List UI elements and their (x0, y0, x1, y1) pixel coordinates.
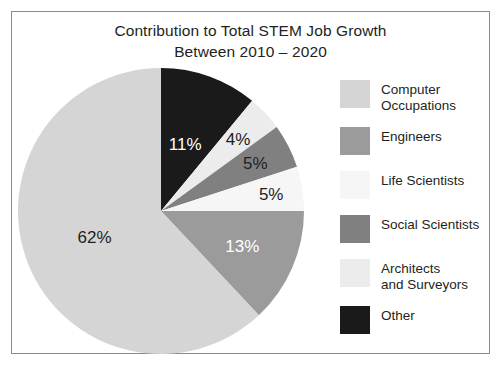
legend-swatch-icon (340, 259, 370, 287)
pie-slice-label: 13% (225, 237, 259, 256)
legend-item-label: Life Scientists (381, 171, 464, 189)
legend-item-label: Computer Occupations (381, 80, 456, 113)
legend-item[interactable]: Computer Occupations (340, 80, 490, 113)
legend-item[interactable]: Life Scientists (340, 171, 490, 201)
chart-legend: Computer OccupationsEngineersLife Scient… (340, 80, 490, 350)
pie-slice-label: 4% (226, 130, 251, 149)
legend-item[interactable]: Engineers (340, 127, 490, 157)
pie-chart-figure: Contribution to Total STEM Job Growth Be… (0, 0, 502, 368)
legend-item-label: Engineers (381, 127, 442, 145)
legend-swatch-icon (340, 171, 370, 199)
legend-item[interactable]: Social Scientists (340, 215, 490, 245)
legend-item-label: Social Scientists (381, 215, 479, 233)
chart-title-line-1: Contribution to Total STEM Job Growth (11, 20, 490, 41)
pie-slices-group (18, 68, 304, 354)
pie-slice-label: 11% (169, 135, 202, 154)
legend-swatch-icon (340, 215, 370, 243)
chart-title-line-2: Between 2010 – 2020 (11, 41, 490, 62)
legend-item[interactable]: Other (340, 306, 490, 336)
pie-plot-area: 11%4%5%5%13%62% (18, 66, 308, 356)
legend-swatch-icon (340, 80, 370, 108)
legend-item-label: Other (381, 306, 415, 324)
legend-item[interactable]: Architects and Surveyors (340, 259, 490, 292)
pie-slice-label: 62% (78, 228, 112, 247)
legend-swatch-icon (340, 306, 370, 334)
pie-slice-label: 5% (259, 185, 284, 204)
pie-slice-label: 5% (243, 154, 268, 173)
pie-svg: 11%4%5%5%13%62% (18, 66, 308, 356)
legend-swatch-icon (340, 127, 370, 155)
chart-title: Contribution to Total STEM Job Growth Be… (11, 20, 490, 62)
legend-item-label: Architects and Surveyors (381, 259, 468, 292)
